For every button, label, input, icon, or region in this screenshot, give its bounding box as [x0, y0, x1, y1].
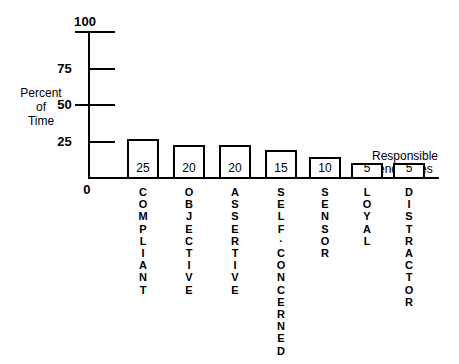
category-label-letter: P: [127, 223, 159, 235]
bar-value-label: 15: [267, 162, 295, 174]
bar-value-label: 5: [353, 162, 381, 174]
category-label-letter: I: [173, 259, 205, 271]
category-label-letter: S: [309, 186, 341, 198]
category-label-letter: N: [265, 271, 297, 283]
category-label-letter: O: [265, 259, 297, 271]
category-label-letter: O: [173, 186, 205, 198]
category-label-letter: V: [219, 271, 251, 283]
category-label-letter: L: [127, 235, 159, 247]
category-label-letter: T: [127, 284, 159, 296]
category-label-letter: M: [127, 210, 159, 222]
category-label-letter: E: [219, 223, 251, 235]
category-label-letter: S: [219, 198, 251, 210]
category-label-letter: E: [219, 284, 251, 296]
bar-value-label: 20: [221, 162, 249, 174]
bar: 15: [265, 150, 297, 179]
category-label-letter: D: [393, 186, 425, 198]
y-axis-title: Percent of Time: [10, 86, 72, 128]
category-label-letter: L: [351, 235, 383, 247]
category-label: SENSOR: [309, 186, 341, 259]
category-label-letter: J: [173, 210, 205, 222]
y-tick-label-0: 0: [70, 183, 104, 196]
category-label-letter: V: [173, 271, 205, 283]
category-label-letter: C: [393, 259, 425, 271]
category-label-letter: R: [309, 247, 341, 259]
category-label-letter: T: [393, 223, 425, 235]
category-label-letter: R: [393, 296, 425, 308]
category-label-letter: A: [393, 247, 425, 259]
category-label-letter: C: [173, 235, 205, 247]
category-label-letter: C: [265, 284, 297, 296]
category-label-letter: E: [265, 332, 297, 344]
category-label-letter: Y: [351, 210, 383, 222]
category-label-letter: C: [127, 186, 159, 198]
bar: 5: [351, 163, 383, 179]
bar: 20: [173, 145, 205, 179]
bar-chart: 100 75 50 25 0 Percent of Time Responsib…: [0, 0, 459, 364]
category-label-letter: A: [219, 186, 251, 198]
y-axis-title-line-3: Time: [10, 114, 72, 128]
category-label-letter: R: [393, 235, 425, 247]
category-label: DISTRACTOR: [393, 186, 425, 308]
y-axis-title-line-1: Percent: [10, 86, 72, 100]
category-label-letter: T: [393, 271, 425, 283]
category-label-letter: B: [173, 198, 205, 210]
category-label-letter: T: [173, 247, 205, 259]
bar-value-label: 20: [175, 162, 203, 174]
category-label-letter: S: [219, 210, 251, 222]
category-label-letter: L: [351, 186, 383, 198]
category-label: OBJECTIVE: [173, 186, 205, 296]
category-label-letter: R: [219, 235, 251, 247]
category-label: SELF·CONCERNED: [265, 186, 297, 357]
category-label: ASSERTIVE: [219, 186, 251, 296]
category-label-letter: O: [393, 284, 425, 296]
category-label-letter: R: [265, 308, 297, 320]
category-label-letter: N: [127, 271, 159, 283]
bar: 25: [127, 139, 159, 179]
category-label-letter: D: [265, 345, 297, 357]
bar: 20: [219, 145, 251, 179]
y-tick-label-25: 25: [38, 135, 72, 148]
category-label-letter: O: [351, 198, 383, 210]
category-label-letter: T: [219, 247, 251, 259]
y-tick-100: [75, 31, 115, 33]
category-label-letter: C: [265, 247, 297, 259]
bar-value-label: 25: [129, 162, 157, 174]
category-label-letter: E: [265, 198, 297, 210]
category-label-letter: I: [219, 259, 251, 271]
category-label-letter: S: [309, 223, 341, 235]
bar-value-label: 10: [311, 162, 339, 174]
category-label-letter: A: [351, 223, 383, 235]
bar-value-label: 5: [395, 162, 423, 174]
category-label-letter: L: [265, 210, 297, 222]
bar: 10: [309, 157, 341, 179]
category-label-letter: O: [309, 235, 341, 247]
category-label-letter: N: [265, 320, 297, 332]
y-tick-label-100: 100: [74, 15, 114, 28]
category-label-letter: N: [309, 210, 341, 222]
category-label-letter: E: [173, 223, 205, 235]
category-label-letter: S: [393, 210, 425, 222]
category-label-letter: E: [173, 284, 205, 296]
category-label-letter: I: [127, 247, 159, 259]
bar: 5: [393, 163, 425, 179]
category-label-letter: I: [393, 198, 425, 210]
category-label-letter: S: [265, 186, 297, 198]
category-label: LOYAL: [351, 186, 383, 247]
y-tick-75: [89, 68, 115, 70]
category-label-letter: E: [309, 198, 341, 210]
y-tick-25: [89, 141, 115, 143]
y-axis-title-line-2: of: [10, 100, 72, 114]
category-label-letter: F: [265, 223, 297, 235]
y-tick-50: [75, 104, 115, 106]
category-label-letter: E: [265, 296, 297, 308]
category-label-letter: O: [127, 198, 159, 210]
y-tick-label-75: 75: [38, 62, 72, 75]
category-label: COMPLIANT: [127, 186, 159, 296]
category-label-letter: A: [127, 259, 159, 271]
category-label-letter: ·: [265, 235, 297, 247]
